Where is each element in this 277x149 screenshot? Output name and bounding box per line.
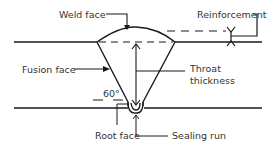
root-face-leader bbox=[117, 104, 127, 125]
label-reinforcement: Reinforcement bbox=[197, 9, 267, 20]
weld-face-arc bbox=[97, 27, 175, 42]
weld-face-leader bbox=[106, 14, 127, 27]
fusion-face-right bbox=[143, 42, 175, 102]
label-root-face: Root face bbox=[95, 130, 140, 141]
label-angle: 60° bbox=[103, 88, 120, 99]
label-throat: Throat bbox=[189, 63, 221, 74]
weld-diagram: Weld face Reinforcement Fusion face Thro… bbox=[0, 0, 277, 149]
throat-arrow bbox=[132, 44, 140, 105]
label-weld-face: Weld face bbox=[59, 9, 106, 20]
label-sealing-run: Sealing run bbox=[172, 130, 226, 141]
fusion-face-arrowhead bbox=[103, 66, 110, 72]
label-thickness: thickness bbox=[190, 75, 235, 86]
label-fusion-face: Fusion face bbox=[22, 64, 76, 75]
